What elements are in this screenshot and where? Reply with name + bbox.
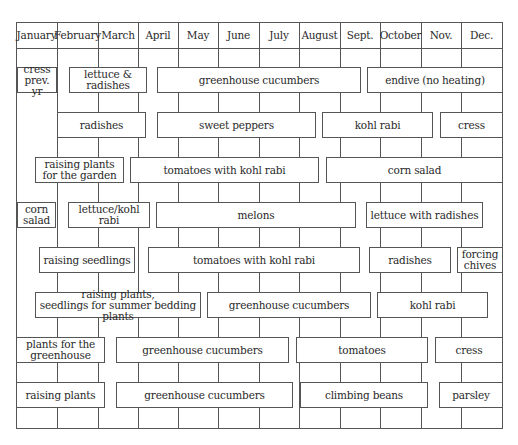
crop-label: radishes — [80, 120, 124, 131]
crop-label: raising plants — [25, 390, 95, 401]
crop-label-line: kohl rabi — [355, 119, 401, 131]
crop-bar: greenhouse cucumbers — [207, 292, 371, 318]
crop-label: radishes — [388, 255, 432, 266]
crop-label: greenhouse cucumbers — [144, 390, 264, 401]
crop-bar: greenhouse cucumbers — [157, 67, 361, 93]
crop-label-line: raising plants — [25, 389, 95, 401]
crop-label: endive (no heating) — [385, 75, 485, 86]
crop-bar: sweet peppers — [157, 112, 316, 138]
crop-label-line: seedlings for summer bedding plants — [40, 299, 196, 322]
crop-label-line: tomatoes — [338, 344, 385, 356]
crop-bar: corn salad — [326, 157, 503, 183]
crop-label-line: cress — [458, 119, 485, 131]
crop-label: kohl rabi — [410, 300, 456, 311]
crop-label: lettuce/kohl rabi — [70, 204, 148, 226]
crop-label: tomatoes — [338, 345, 385, 356]
crop-label-line: sweet peppers — [199, 119, 274, 131]
crop-bar: kohl rabi — [322, 112, 433, 138]
month-header-nov: Nov. — [421, 22, 461, 48]
crop-label-line: cress — [456, 344, 483, 356]
crop-label-line: chives — [464, 259, 496, 271]
crop-label-line: radishes — [388, 254, 432, 266]
crop-bar: cress — [440, 112, 503, 138]
crop-label-line: tomatoes with kohl rabi — [193, 254, 315, 266]
crop-label-line: melons — [238, 209, 275, 221]
crop-bar: raising plants,seedlings for summer bedd… — [35, 292, 201, 318]
month-header-may: May — [178, 22, 218, 48]
month-header-sept: Sept. — [340, 22, 380, 48]
crop-bar: climbing beans — [300, 382, 428, 408]
crop-bar: forcingchives — [457, 247, 503, 273]
crop-bar: tomatoes with kohl rabi — [130, 157, 319, 183]
crop-bar: greenhouse cucumbers — [116, 337, 289, 363]
crop-label: corn salad — [388, 165, 441, 176]
crop-label: greenhouse cucumbers — [229, 300, 349, 311]
crop-bar: radishes — [369, 247, 451, 273]
crop-bar: raising seedlings — [39, 247, 135, 273]
crop-label-line: for the garden — [43, 169, 117, 181]
crop-label-line: greenhouse cucumbers — [229, 299, 349, 311]
crop-label: tomatoes with kohl rabi — [193, 255, 315, 266]
crop-label: greenhouse cucumbers — [199, 75, 319, 86]
month-header-july: July — [259, 22, 299, 48]
crop-label-line: greenhouse cucumbers — [144, 389, 264, 401]
month-divider — [57, 22, 58, 429]
crop-label: greenhouse cucumbers — [142, 345, 262, 356]
crop-bar: melons — [156, 202, 356, 228]
crop-label-line: corn salad — [388, 164, 441, 176]
crop-label: raising plantsfor the garden — [43, 159, 117, 181]
crop-label: cornsalad — [23, 204, 50, 226]
crop-label: parsley — [452, 390, 490, 401]
crop-label-line: greenhouse — [30, 349, 90, 361]
crop-label: lettuce with radishes — [371, 210, 479, 221]
crop-label-line: prev. yr — [25, 74, 50, 97]
crop-label-line: endive (no heating) — [385, 74, 485, 86]
month-header-january: January — [16, 22, 57, 48]
crop-bar: radishes — [57, 112, 146, 138]
crop-label: melons — [238, 210, 275, 221]
crop-label: plants for thegreenhouse — [26, 339, 95, 361]
crop-label-line: greenhouse cucumbers — [142, 344, 262, 356]
crop-label-line: radishes — [80, 119, 124, 131]
crop-bar: plants for thegreenhouse — [16, 337, 105, 363]
crop-label: raising plants,seedlings for summer bedd… — [37, 289, 199, 322]
month-header-dec: Dec. — [461, 22, 502, 48]
crop-bar: kohl rabi — [377, 292, 488, 318]
crop-label: raising seedlings — [44, 255, 131, 266]
month-header-april: April — [138, 22, 178, 48]
month-header-october: October — [380, 22, 421, 48]
crop-label-line: lettuce & radishes — [84, 68, 132, 91]
crop-label-line: greenhouse cucumbers — [199, 74, 319, 86]
crop-label-line: lettuce with radishes — [371, 209, 479, 221]
crop-label: forcingchives — [462, 249, 499, 271]
crop-label-line: salad — [23, 214, 50, 226]
crop-bar: lettuce & radishes — [69, 67, 147, 93]
crop-bar: parsley — [439, 382, 503, 408]
crop-label: sweet peppers — [199, 120, 274, 131]
crop-bar: cressprev. yr — [17, 67, 57, 93]
crop-bar: raising plants — [16, 382, 105, 408]
crop-bar: cress — [435, 337, 503, 363]
crop-bar: cornsalad — [17, 202, 56, 228]
crop-bar: tomatoes — [296, 337, 428, 363]
crop-bar: endive (no heating) — [367, 67, 503, 93]
month-header-march: March — [98, 22, 138, 48]
crop-label-line: lettuce/kohl rabi — [79, 203, 140, 226]
month-header-june: June — [218, 22, 259, 48]
crop-label: cress — [458, 120, 485, 131]
crop-label: lettuce & radishes — [71, 69, 145, 91]
crop-label: cressprev. yr — [19, 64, 55, 97]
crop-label-line: raising seedlings — [44, 254, 131, 266]
crop-bar: lettuce/kohl rabi — [68, 202, 150, 228]
crop-bar: tomatoes with kohl rabi — [148, 247, 360, 273]
month-header-august: August — [299, 22, 340, 48]
crop-label-line: kohl rabi — [410, 299, 456, 311]
crop-label: kohl rabi — [355, 120, 401, 131]
crop-label-line: climbing beans — [325, 389, 403, 401]
crop-calendar: JanuaryFebruaryMarchAprilMayJuneJulyAugu… — [0, 0, 518, 445]
crop-label: tomatoes with kohl rabi — [164, 165, 286, 176]
crop-label: cress — [456, 345, 483, 356]
crop-bar: greenhouse cucumbers — [116, 382, 293, 408]
crop-label-line: parsley — [452, 389, 490, 401]
crop-bar: lettuce with radishes — [366, 202, 483, 228]
